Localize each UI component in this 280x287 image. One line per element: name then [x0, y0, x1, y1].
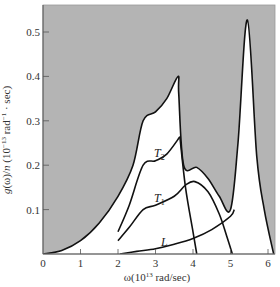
- y-axis-title: g(ω)/n (10−13 rad−1 · sec): [0, 86, 13, 194]
- phonon-dos-chart: 01234560.10.20.30.40.5ω(1013 rad/sec)g(ω…: [0, 0, 280, 287]
- plot-area: [43, 5, 275, 254]
- x-tick-label: 3: [153, 257, 159, 269]
- y-tick-label: 0.3: [26, 115, 40, 127]
- y-tick-label: 0.2: [26, 159, 40, 171]
- x-tick-label: 0: [40, 257, 46, 269]
- y-tick-label: 0.5: [26, 26, 40, 38]
- x-tick-label: 4: [190, 257, 196, 269]
- y-tick-label: 0.1: [26, 204, 40, 216]
- label-t1: T1: [154, 191, 165, 207]
- curve-t1: [118, 181, 232, 254]
- x-tick-label: 5: [228, 257, 234, 269]
- label-t2: T2: [154, 146, 165, 162]
- x-axis-title: ω(1013 rad/sec): [124, 271, 191, 284]
- y-tick-label: 0.4: [26, 70, 40, 82]
- x-tick-label: 6: [265, 257, 271, 269]
- x-tick-label: 2: [115, 257, 121, 269]
- shaded-region: [43, 5, 275, 254]
- x-tick-label: 1: [78, 257, 84, 269]
- label-l: L: [160, 235, 168, 249]
